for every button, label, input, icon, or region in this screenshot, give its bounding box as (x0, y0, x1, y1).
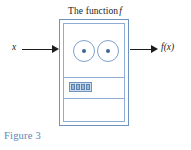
input-arrow (22, 45, 59, 54)
segment-display (69, 82, 92, 92)
diagram-title-text: The function (68, 6, 118, 16)
function-machine-inner-panel (63, 23, 125, 122)
diagram-title: The functionf (58, 5, 132, 17)
diagram-title-symbol: f (118, 6, 122, 16)
panel-divider-lower (64, 98, 124, 99)
input-label: x (12, 42, 16, 52)
output-label: f(x) (161, 42, 174, 52)
function-machine-figure: The functionf x f(x) Figure 3 (0, 0, 191, 150)
dial-right-icon (97, 40, 119, 62)
figure-caption: Figure 3 (4, 130, 41, 141)
dial-left-icon (73, 40, 95, 62)
segment-cell (76, 84, 80, 90)
segment-cell (81, 84, 85, 90)
input-arrow-head (52, 45, 59, 53)
output-arrow-head (151, 45, 158, 53)
output-arrow (130, 45, 158, 54)
segment-cell (86, 84, 90, 90)
function-machine-box (59, 19, 129, 126)
output-arrow-shaft (130, 49, 152, 50)
segment-cell (71, 84, 75, 90)
panel-divider-upper (64, 77, 124, 78)
input-arrow-shaft (22, 49, 53, 50)
